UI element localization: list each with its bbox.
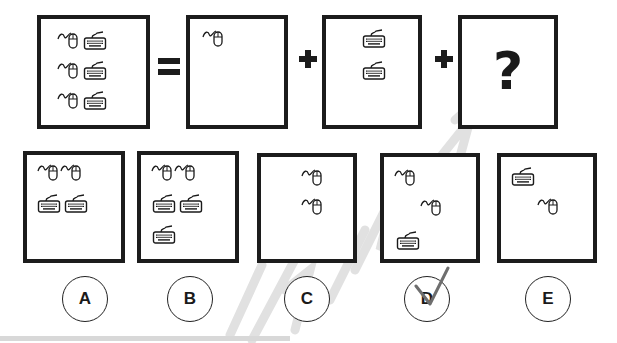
equals-sign (158, 56, 180, 78)
computer-mouse-icon (202, 27, 226, 49)
computer-mouse-icon (37, 161, 61, 183)
keyboard-icon (83, 89, 107, 111)
part1-box (186, 15, 288, 129)
answer-option-c[interactable]: C (284, 276, 330, 322)
option-letter: E (542, 289, 553, 309)
computer-mouse-icon (537, 195, 561, 217)
keyboard-icon (152, 192, 176, 214)
plus-sign (435, 50, 453, 68)
answer-option-b[interactable]: B (167, 276, 213, 322)
computer-mouse-icon (174, 161, 198, 183)
keyboard-icon (511, 165, 535, 187)
keyboard-icon (37, 192, 61, 214)
computer-mouse-icon (301, 195, 325, 217)
keyboard-icon (362, 59, 386, 81)
scan-edge (0, 336, 290, 341)
plus-sign (299, 50, 317, 68)
option-box-d[interactable] (380, 153, 480, 263)
checkmark-icon (412, 266, 452, 316)
question-mark: ? (462, 41, 554, 101)
option-box-a[interactable] (23, 151, 125, 263)
option-box-e[interactable] (497, 153, 597, 263)
whole-set-box (37, 15, 150, 129)
option-letter: C (301, 289, 313, 309)
keyboard-icon (83, 29, 107, 51)
computer-mouse-icon (420, 196, 444, 218)
option-box-c[interactable] (257, 153, 357, 263)
computer-mouse-icon (301, 166, 325, 188)
answer-option-a[interactable]: A (62, 276, 108, 322)
computer-mouse-icon (394, 166, 418, 188)
option-box-b[interactable] (137, 151, 239, 263)
part2-box (322, 15, 422, 129)
computer-mouse-icon (57, 29, 81, 51)
answer-option-e[interactable]: E (525, 276, 571, 322)
keyboard-icon (179, 192, 203, 214)
keyboard-icon (152, 223, 176, 245)
keyboard-icon (396, 229, 420, 251)
computer-mouse-icon (151, 161, 175, 183)
option-letter: A (79, 289, 91, 309)
computer-mouse-icon (57, 59, 81, 81)
option-letter: B (184, 289, 196, 309)
computer-mouse-icon (60, 161, 84, 183)
keyboard-icon (362, 27, 386, 49)
computer-mouse-icon (57, 89, 81, 111)
keyboard-icon (83, 59, 107, 81)
unknown-box: ? (458, 15, 558, 129)
keyboard-icon (64, 192, 88, 214)
